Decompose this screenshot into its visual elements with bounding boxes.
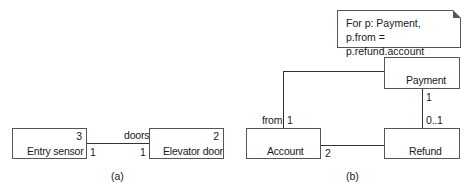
- refund-class: Refund: [384, 128, 460, 159]
- account-class: Account: [246, 128, 321, 159]
- constraint-note: For p: Payment, p.from = p.refund.accoun…: [337, 10, 461, 48]
- account-refund-multiplicity: 2: [325, 147, 331, 159]
- note-fold-corner: [453, 10, 461, 18]
- payment-account-line-h: [283, 71, 384, 72]
- account-refund-line: [321, 145, 384, 146]
- payment-account-line-v: [283, 71, 284, 128]
- caption-b: (b): [346, 170, 359, 182]
- refund-payment-multiplicity: 0..1: [426, 114, 443, 126]
- elevator-door-multiplicity: 1: [140, 146, 146, 158]
- entry-sensor-label: Entry sensor: [27, 145, 84, 157]
- payment-label: Payment: [406, 74, 446, 86]
- from-role-label: from: [262, 114, 282, 126]
- payment-refund-line: [422, 89, 423, 128]
- entry-sensor-count: 3: [76, 130, 82, 142]
- note-line-1: For p: Payment,: [346, 16, 452, 30]
- elevator-door-count: 2: [213, 130, 219, 142]
- entry-sensor-class: 3 Entry sensor: [12, 128, 87, 159]
- note-line-2: p.from = p.refund.account: [346, 30, 452, 58]
- refund-label: Refund: [409, 145, 442, 157]
- elevator-door-label: Elevator door: [163, 145, 223, 157]
- payment-refund-multiplicity: 1: [426, 91, 432, 103]
- payment-class: Payment: [384, 57, 460, 89]
- doors-association-line: [87, 143, 149, 144]
- entry-sensor-multiplicity: 1: [90, 146, 96, 158]
- elevator-door-class: 2 Elevator door: [149, 128, 224, 159]
- account-label: Account: [267, 145, 304, 157]
- caption-a: (a): [111, 170, 124, 182]
- account-payment-multiplicity: 1: [287, 114, 293, 126]
- doors-role-label: doors: [124, 129, 149, 141]
